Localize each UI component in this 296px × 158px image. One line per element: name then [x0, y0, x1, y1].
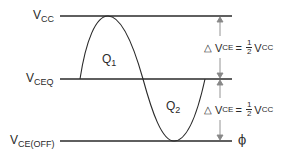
delta-icon: △: [204, 104, 212, 115]
delta-icon: △: [204, 42, 212, 53]
q1-label: Q1: [102, 53, 116, 69]
vce-off-label: VCE(OFF): [10, 134, 55, 150]
vceq-label: VCEQ: [26, 72, 54, 88]
upper-delta-vce-equation: △ VCE = 12 VCC: [204, 39, 273, 56]
ground-phi-symbol: ϕ: [238, 134, 246, 146]
vcc-label: VCC: [33, 9, 54, 25]
one-half-fraction: 12: [246, 101, 252, 118]
q2-label: Q2: [166, 100, 180, 116]
lower-delta-vce-equation: △ VCE = 12 VCC: [204, 101, 273, 118]
one-half-fraction: 12: [246, 39, 252, 56]
